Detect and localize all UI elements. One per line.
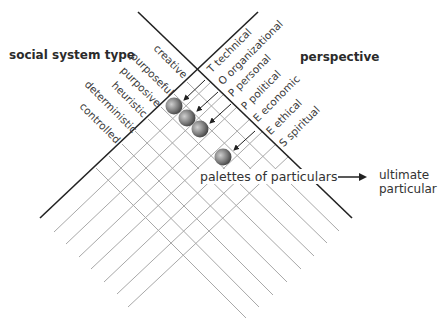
sphere-3: [192, 121, 209, 138]
heading-perspective: perspective: [300, 50, 379, 64]
sphere-1: [166, 98, 183, 115]
sphere-4: [215, 149, 232, 166]
sphere-2: [179, 110, 196, 127]
heading-social-system-type: social system type: [9, 48, 135, 62]
ultimate-particular-label: ultimate particular: [379, 168, 437, 196]
palettes-of-particulars-label: palettes of particulars: [199, 169, 338, 184]
particular-spheres: [166, 98, 232, 166]
ultimate-label-line1: ultimate: [379, 168, 437, 182]
system-type-axis: [40, 12, 258, 218]
ultimate-label-line2: particular: [379, 182, 437, 196]
